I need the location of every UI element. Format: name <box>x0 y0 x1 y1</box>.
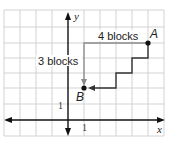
blocks-path <box>81 43 148 86</box>
x-axis-label: x <box>156 123 162 135</box>
down-arrow-icon <box>81 79 87 86</box>
vertical-blocks-label: 3 blocks <box>38 55 79 67</box>
point-a <box>145 40 150 45</box>
staircase-path <box>88 43 148 91</box>
left-arrow-icon <box>88 85 95 91</box>
y-tick-label: 1 <box>58 100 63 111</box>
x-tick-label: 1 <box>82 122 87 133</box>
point-a-label: A <box>149 27 158 41</box>
y-axis-label: y <box>73 10 79 22</box>
point-b-label: B <box>76 90 84 104</box>
horizontal-blocks-label: 4 blocks <box>98 30 139 42</box>
coordinate-grid: y x 1 1 4 blocks 3 blocks A B <box>0 0 175 143</box>
y-axis <box>65 12 71 136</box>
